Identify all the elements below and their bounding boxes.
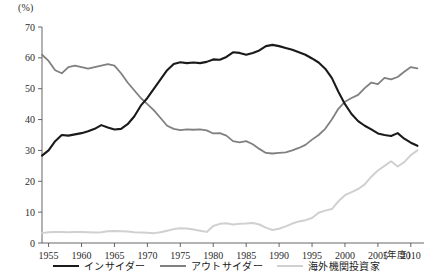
y-axis-tick-label: 0 bbox=[30, 238, 35, 249]
legend-line-swatch bbox=[277, 265, 303, 267]
legend-label: 海外機関投資家 bbox=[308, 258, 380, 273]
line-chart-svg: 0102030405060701955196019651970197519801… bbox=[0, 0, 433, 280]
legend-label: インサイダー bbox=[84, 258, 146, 273]
legend-item-1[interactable]: インサイダー bbox=[53, 258, 146, 273]
y-axis-tick-label: 60 bbox=[25, 52, 35, 63]
series-line-3 bbox=[42, 150, 417, 233]
legend-line-swatch bbox=[53, 265, 79, 267]
legend-item-2[interactable]: アウトサイダー bbox=[160, 258, 263, 273]
y-axis-tick-label: 20 bbox=[25, 176, 35, 187]
y-axis-tick-label: 70 bbox=[25, 22, 35, 33]
y-axis-tick-label: 10 bbox=[25, 207, 35, 218]
series-line-2 bbox=[42, 55, 417, 154]
legend-item-3[interactable]: 海外機関投資家 bbox=[277, 258, 380, 273]
legend-line-swatch bbox=[160, 265, 186, 267]
chart-legend: インサイダーアウトサイダー海外機関投資家 bbox=[0, 258, 433, 273]
y-axis-tick-label: 40 bbox=[25, 114, 35, 125]
y-axis-tick-label: 30 bbox=[25, 145, 35, 156]
chart-container: (%) 010203040506070195519601965197019751… bbox=[0, 0, 433, 280]
y-axis-tick-label: 50 bbox=[25, 83, 35, 94]
legend-label: アウトサイダー bbox=[191, 258, 263, 273]
